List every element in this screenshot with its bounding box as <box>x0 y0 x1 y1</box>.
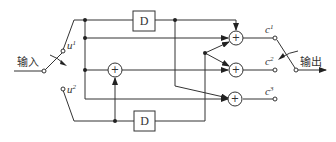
input-switch-actuator-arrow <box>60 60 67 66</box>
delay-top-label: D <box>133 15 155 27</box>
bottom-delay-to-adder2 <box>205 53 229 66</box>
input-switch-arm <box>45 53 62 70</box>
c1-label: c1 <box>265 24 273 35</box>
c3-terminal <box>273 97 277 101</box>
u1-terminal <box>61 49 65 53</box>
bottom-delay-to-adder1 <box>205 42 229 53</box>
junction-dot <box>83 36 87 40</box>
adder-middle-symbol: + <box>108 65 122 75</box>
output-switch-arm <box>277 40 295 68</box>
junction-dot <box>173 18 177 22</box>
input-label: 输入 <box>17 57 39 68</box>
adder-1-symbol: + <box>229 33 243 43</box>
c3-label: c3 <box>265 86 273 97</box>
delay-bottom-label: D <box>134 115 155 127</box>
u2-terminal <box>61 87 65 91</box>
convolutional-encoder-diagram: 输入 输出 u1 u2 c1 c2 c3 D D + + + + <box>0 0 336 142</box>
junction-dot <box>113 119 117 123</box>
c2-terminal <box>273 68 277 72</box>
u1-label: u1 <box>67 40 76 51</box>
output-switch-actuator-arrow <box>278 53 285 60</box>
junction-dot <box>83 68 87 72</box>
junction-dot <box>203 51 207 55</box>
c1-terminal <box>273 36 277 40</box>
diagram-wires <box>0 0 336 142</box>
adder-3-symbol: + <box>228 94 242 104</box>
junction-dot <box>83 18 87 22</box>
c2-label: c2 <box>265 56 273 67</box>
top-delay-to-adder3 <box>175 20 228 98</box>
u2-label: u2 <box>67 84 76 95</box>
adder-2-symbol: + <box>229 65 243 75</box>
output-label: 输出 <box>300 57 322 68</box>
input-pivot-terminal <box>42 69 46 73</box>
output-pivot-terminal <box>294 68 298 72</box>
